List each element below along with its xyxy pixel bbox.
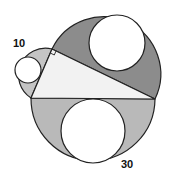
- top-inner-circle: [89, 15, 145, 71]
- bottom-inner-circle: [61, 99, 125, 163]
- geometry-diagram: 10 30: [0, 0, 171, 176]
- label-10: 10: [13, 37, 25, 49]
- label-30: 30: [121, 158, 133, 170]
- small-inner-circle: [15, 57, 41, 83]
